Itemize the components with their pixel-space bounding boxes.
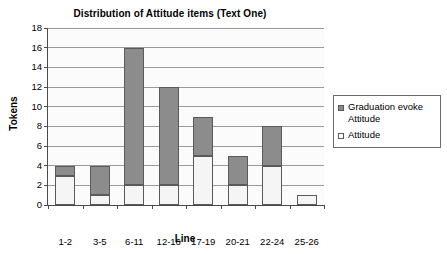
plot-area: 0246810121416181-23-56-1112-1617-1920-21… [47,28,324,206]
y-axis-tick [44,67,48,68]
legend-label-graduation: Graduation evoke Attitude [348,101,436,124]
bar-3-5 [90,28,110,205]
y-axis-tick-label: 14 [12,62,42,72]
bar-segment-graduation [55,166,75,176]
y-axis-tick [44,146,48,147]
bar-segment-attitude [90,195,110,205]
bar-22-24 [262,28,282,205]
legend-item-attitude: Attitude [338,129,436,141]
bar-20-21 [228,28,248,205]
bar-segment-graduation [159,87,179,185]
chart-legend: Graduation evoke Attitude Attitude [333,95,441,148]
x-axis-tick [48,205,49,209]
y-axis-tick-label: 12 [12,82,42,92]
y-axis-tick-label: 4 [12,161,42,171]
y-axis-tick-label: 16 [12,43,42,53]
x-axis-tick [186,205,187,209]
y-axis-tick [44,126,48,127]
x-axis-tick [324,205,325,209]
bar-segment-attitude [124,185,144,205]
y-axis-tick [44,165,48,166]
bar-segment-attitude [262,166,282,205]
bar-segment-attitude [297,195,317,205]
x-axis-tick [290,205,291,209]
x-axis-tick [221,205,222,209]
y-axis-tick [44,28,48,29]
x-axis-title: Line [47,233,323,244]
y-axis-tick-label: 18 [12,23,42,33]
y-axis-title: Tokens [8,84,19,144]
legend-swatch-icon-attitude [338,133,344,139]
y-axis-tick [44,106,48,107]
x-axis-tick [117,205,118,209]
y-axis-tick-label: 2 [12,180,42,190]
x-axis-tick [255,205,256,209]
bar-segment-graduation [193,117,213,156]
legend-item-graduation-evoke-attitude: Graduation evoke Attitude [338,101,436,124]
bar-12-16 [159,28,179,205]
x-axis-tick [152,205,153,209]
chart-container: Distribution of Attitude items (Text One… [0,0,447,254]
bar-segment-attitude [159,185,179,205]
y-axis-tick-label: 0 [12,200,42,210]
x-axis-tick [83,205,84,209]
bar-6-11 [124,28,144,205]
bar-17-19 [193,28,213,205]
y-axis-tick-label: 8 [12,121,42,131]
y-axis-tick [44,47,48,48]
legend-label-attitude: Attitude [348,129,380,141]
y-axis-tick [44,185,48,186]
bar-segment-attitude [228,185,248,205]
bar-segment-graduation [228,156,248,186]
bar-segment-graduation [90,166,110,196]
y-axis-tick-label: 6 [12,141,42,151]
bar-segment-attitude [193,156,213,205]
bar-segment-graduation [124,48,144,186]
legend-swatch-icon-graduation [338,105,344,111]
chart-title: Distribution of Attitude items (Text One… [0,8,340,19]
bar-segment-attitude [55,176,75,206]
y-axis-tick-label: 10 [12,102,42,112]
bar-segment-graduation [262,126,282,165]
bar-1-2 [55,28,75,205]
y-axis-tick [44,87,48,88]
bar-25-26 [297,28,317,205]
